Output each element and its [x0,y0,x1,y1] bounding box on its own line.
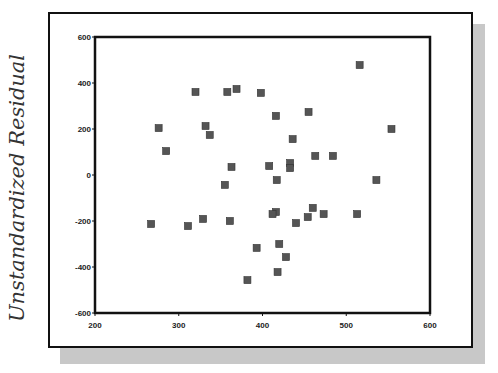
data-point [202,123,209,130]
data-point [221,181,228,188]
data-point [200,215,207,222]
y-tick-label: 400 [78,79,92,88]
data-point [287,165,294,172]
data-point [309,204,316,211]
data-point [356,62,363,69]
scatter-plot: 2003004005006006004002000-200-400-600 [0,0,498,373]
x-tick-label: 200 [88,321,102,330]
data-point [148,220,155,227]
data-point [233,85,240,92]
data-point [228,163,235,170]
data-point [163,148,170,155]
plot-area [95,37,430,313]
x-tick-label: 400 [256,321,270,330]
data-point [272,112,279,119]
data-point [293,220,300,227]
data-point [253,244,260,251]
y-tick-label: 600 [78,33,92,42]
data-point [276,241,283,248]
x-tick-label: 600 [423,321,437,330]
x-tick-label: 500 [340,321,354,330]
data-point [266,163,273,170]
data-point [226,218,233,225]
data-point [224,88,231,95]
y-tick-label: -600 [75,309,92,318]
y-tick-label: -400 [75,263,92,272]
data-point [269,211,276,218]
data-point [320,211,327,218]
data-point [206,131,213,138]
data-point [354,211,361,218]
data-point [184,223,191,230]
data-point [257,89,264,96]
data-point [304,214,311,221]
y-tick-label: 200 [78,125,92,134]
data-point [312,152,319,159]
data-point [273,177,280,184]
data-point [289,136,296,143]
x-tick-label: 300 [172,321,186,330]
y-tick-label: -200 [75,217,92,226]
data-point [274,269,281,276]
data-point [282,254,289,261]
data-point [388,126,395,133]
data-point [305,108,312,115]
data-point [373,177,380,184]
y-tick-label: 0 [87,171,92,180]
data-point [192,88,199,95]
data-point [244,277,251,284]
data-point [155,125,162,132]
data-point [329,152,336,159]
